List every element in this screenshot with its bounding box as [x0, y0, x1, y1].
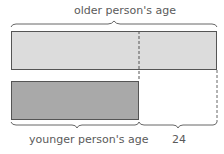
- older-age-brace: [11, 21, 217, 27]
- younger-age-label: younger person's age: [29, 133, 148, 146]
- difference-brace: [139, 122, 217, 128]
- difference-label: 24: [172, 133, 186, 146]
- younger-age-brace: [11, 122, 139, 128]
- older-age-bar: [12, 32, 217, 70]
- younger-age-bar: [12, 82, 139, 120]
- diagram-graphics: [0, 0, 224, 154]
